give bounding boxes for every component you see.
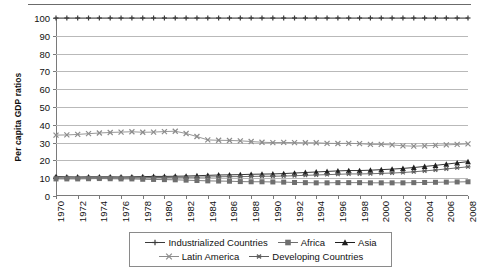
x-tick-mark bbox=[78, 196, 79, 199]
x-tick-label: 2004 bbox=[423, 201, 434, 222]
x-tick-label: 1998 bbox=[358, 201, 369, 222]
x-tick-label: 1990 bbox=[271, 201, 282, 222]
legend-row-1: Industrialized CountriesAfricaAsia bbox=[135, 235, 386, 249]
y-tick-label: 50 bbox=[39, 102, 50, 113]
x-tick-label: 2006 bbox=[445, 201, 456, 222]
chart-legend: Industrialized CountriesAfricaAsia Latin… bbox=[129, 232, 392, 267]
x-tick-label: 1994 bbox=[315, 201, 326, 222]
y-tick-label: 90 bbox=[39, 30, 50, 41]
x-tick-label: 1980 bbox=[163, 201, 174, 222]
y-tick-label: 30 bbox=[39, 137, 50, 148]
legend-marker-asterisk-icon bbox=[248, 251, 270, 262]
x-tick-mark bbox=[121, 196, 122, 199]
y-tick-label: 10 bbox=[39, 173, 50, 184]
series-layer bbox=[56, 18, 468, 196]
x-tick-mark bbox=[425, 196, 426, 199]
x-tick-mark bbox=[208, 196, 209, 199]
legend-item[interactable]: Asia bbox=[334, 237, 376, 248]
x-tick-mark bbox=[56, 196, 57, 199]
y-axis-title: Per capita GDP ratios bbox=[13, 52, 23, 182]
x-tick-mark bbox=[143, 196, 144, 199]
legend-marker-x-icon bbox=[158, 251, 180, 262]
series-industrialized-countries bbox=[54, 16, 471, 21]
y-tick-label: 80 bbox=[39, 48, 50, 59]
x-tick-label: 1974 bbox=[98, 201, 109, 222]
x-tick-mark bbox=[273, 196, 274, 199]
x-tick-label: 1992 bbox=[293, 201, 304, 222]
series-line bbox=[56, 131, 468, 146]
legend-item-label: Africa bbox=[301, 237, 325, 248]
x-tick-label: 1988 bbox=[250, 201, 261, 222]
legend-item-label: Developing Countries bbox=[272, 251, 363, 262]
y-tick-label: 60 bbox=[39, 84, 50, 95]
x-tick-label: 1986 bbox=[228, 201, 239, 222]
x-tick-mark bbox=[251, 196, 252, 199]
x-tick-mark bbox=[403, 196, 404, 199]
x-tick-label: 1978 bbox=[141, 201, 152, 222]
x-tick-mark bbox=[381, 196, 382, 199]
x-tick-mark bbox=[446, 196, 447, 199]
y-tick-label: 0 bbox=[45, 191, 50, 202]
x-tick-label: 1976 bbox=[120, 201, 131, 222]
x-tick-mark bbox=[360, 196, 361, 199]
x-tick-label: 1982 bbox=[185, 201, 196, 222]
x-tick-mark bbox=[295, 196, 296, 199]
legend-marker-plus-icon bbox=[144, 237, 166, 248]
y-tick-label: 20 bbox=[39, 155, 50, 166]
legend-item[interactable]: Africa bbox=[277, 237, 325, 248]
y-tick-label: 40 bbox=[39, 119, 50, 130]
x-tick-label: 1970 bbox=[55, 201, 66, 222]
legend-item-label: Industrialized Countries bbox=[168, 237, 267, 248]
x-tick-mark bbox=[99, 196, 100, 199]
legend-item[interactable]: Industrialized Countries bbox=[144, 237, 267, 248]
y-tick-label: 70 bbox=[39, 66, 50, 77]
legend-row-2: Latin AmericaDeveloping Countries bbox=[135, 249, 386, 263]
x-tick-mark bbox=[338, 196, 339, 199]
x-tick-label: 2000 bbox=[380, 201, 391, 222]
legend-item-label: Asia bbox=[358, 237, 376, 248]
x-tick-mark bbox=[468, 196, 469, 199]
x-tick-mark bbox=[229, 196, 230, 199]
legend-item-label: Latin America bbox=[182, 251, 240, 262]
legend-marker-triangle-icon bbox=[334, 237, 356, 248]
series-latin-america bbox=[54, 129, 471, 149]
x-tick-label: 1984 bbox=[206, 201, 217, 222]
top-divider-rule bbox=[28, 4, 471, 5]
plot-area: 0102030405060708090100 19701972197419761… bbox=[56, 18, 468, 196]
x-tick-label: 1996 bbox=[336, 201, 347, 222]
x-tick-mark bbox=[316, 196, 317, 199]
x-tick-label: 2002 bbox=[401, 201, 412, 222]
x-tick-mark bbox=[164, 196, 165, 199]
x-tick-label: 2008 bbox=[467, 201, 478, 222]
x-tick-mark bbox=[186, 196, 187, 199]
x-tick-label: 1972 bbox=[76, 201, 87, 222]
legend-item[interactable]: Latin America bbox=[158, 251, 240, 262]
legend-marker-square-icon bbox=[277, 237, 299, 248]
legend-item[interactable]: Developing Countries bbox=[248, 251, 363, 262]
y-tick-label: 100 bbox=[34, 13, 50, 24]
